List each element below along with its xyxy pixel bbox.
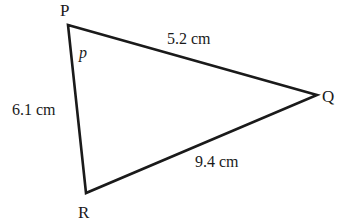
vertex-label-r: R [78,203,90,222]
vertex-label-p: P [60,1,69,20]
triangle-pqr [68,25,317,193]
angle-label-p: p [78,44,87,62]
side-label-qr: 9.4 cm [195,153,239,170]
triangle-diagram: P Q R 5.2 cm 6.1 cm 9.4 cm p [0,0,346,223]
vertex-label-q: Q [322,87,334,106]
side-label-pq: 5.2 cm [167,30,211,47]
side-label-pr: 6.1 cm [12,101,56,118]
